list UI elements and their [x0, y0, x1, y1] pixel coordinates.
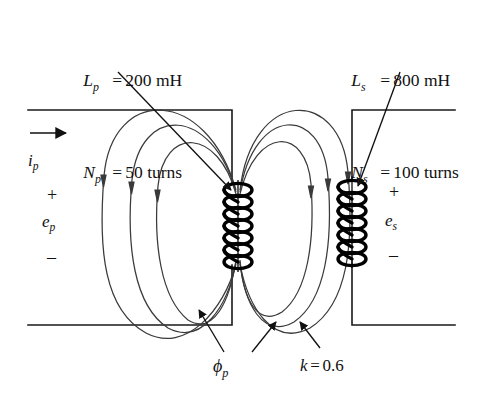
- primary-turns-symbol: Np: [83, 163, 109, 181]
- primary-turns-equals: =: [109, 163, 125, 181]
- secondary-turns-symbol: Ns: [351, 163, 377, 181]
- primary-current-label: ip: [28, 152, 39, 170]
- flux-subscript: p: [222, 366, 228, 380]
- primary-turns-subscript: p: [95, 172, 101, 186]
- secondary-parameters-label: Ls=800 mH Ns=100 turns: [325, 16, 459, 237]
- secondary-bottom-wire: [352, 262, 455, 325]
- primary-inductance-symbol: Lp: [83, 71, 109, 89]
- leader-flux-right: [252, 322, 276, 352]
- primary-polarity-plus: +: [47, 186, 57, 205]
- secondary-turns-value: 100 turns: [393, 162, 459, 182]
- secondary-inductance-value: 800 mH: [393, 70, 450, 90]
- secondary-inductance-equals: =: [377, 71, 393, 89]
- secondary-inductance-subscript: s: [361, 80, 366, 94]
- primary-inductance-value: 200 mH: [125, 70, 182, 90]
- secondary-voltage-subscript: s: [393, 220, 398, 233]
- secondary-inductance-row: Ls=800 mH: [325, 53, 459, 108]
- coupling-value: 0.6: [323, 356, 344, 375]
- secondary-polarity-plus: +: [389, 183, 399, 202]
- secondary-inductance-symbol: Ls: [351, 71, 377, 89]
- primary-bottom-wire: [28, 265, 232, 325]
- secondary-polarity-minus: –: [389, 246, 398, 265]
- flux-label: ϕp: [213, 357, 228, 376]
- secondary-voltage-label: es: [385, 212, 397, 230]
- leader-coupling: [300, 322, 320, 348]
- primary-inductance-subscript: p: [93, 80, 99, 94]
- leader-flux-left: [199, 310, 224, 352]
- coupling-symbol: k: [300, 356, 308, 375]
- primary-current-subscript: p: [33, 160, 39, 173]
- primary-polarity-minus: –: [47, 248, 56, 267]
- primary-parameters-label: Lp=200 mH Np=50 turns: [57, 16, 182, 237]
- primary-turns-value: 50 turns: [125, 162, 182, 182]
- coupling-equals: =: [308, 357, 323, 375]
- coupled-coils-figure: Lp=200 mH Np=50 turns Ls=800 mH Ns=100 t…: [0, 0, 478, 399]
- primary-coil: [224, 180, 252, 272]
- primary-voltage-subscript: p: [50, 221, 56, 234]
- coupling-coefficient-label: k=0.6: [300, 357, 344, 375]
- primary-voltage-label: ep: [42, 213, 55, 231]
- secondary-turns-equals: =: [377, 163, 393, 181]
- primary-inductance-row: Lp=200 mH: [57, 53, 182, 108]
- primary-inductance-equals: =: [109, 71, 125, 89]
- primary-turns-row: Np=50 turns: [57, 145, 182, 200]
- secondary-turns-subscript: s: [363, 172, 368, 186]
